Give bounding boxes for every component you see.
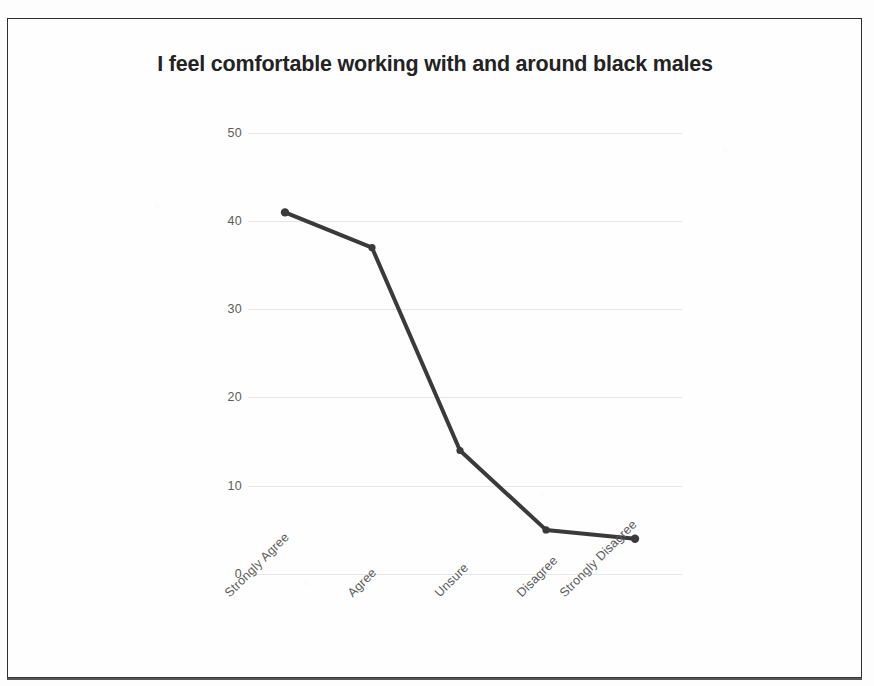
data-point-disagree	[542, 526, 549, 533]
data-point-unsure	[456, 447, 463, 454]
page-root: I feel comfortable working with and arou…	[0, 0, 874, 686]
data-point-strongly-disagree	[631, 535, 639, 543]
data-point-strongly-agree	[281, 208, 289, 216]
data-point-agree	[368, 244, 375, 251]
data-line-responses	[285, 212, 635, 538]
plot-area: 50 40 30 20 10 0 Strongly Agree Agree Un…	[0, 0, 874, 686]
